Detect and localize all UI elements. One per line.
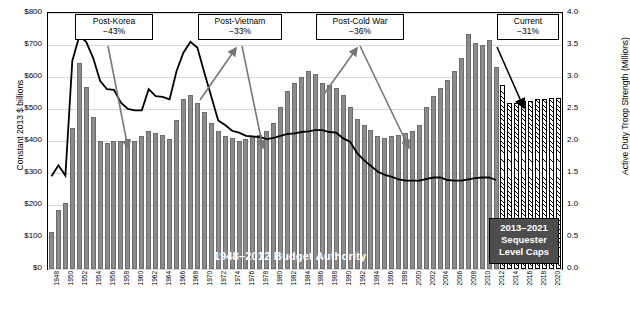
x-tick-label: 2010 bbox=[484, 271, 491, 285]
x-tick-label: 1978 bbox=[262, 271, 269, 285]
annotation-post-cold-war-title: Post-Cold War bbox=[333, 16, 388, 26]
y-tick-right: 0.0 bbox=[567, 263, 607, 272]
x-tick-label: 1972 bbox=[220, 271, 227, 285]
y-tick-left: $400 bbox=[2, 135, 42, 144]
y-tick-right: 3.0 bbox=[567, 71, 607, 80]
x-tick-label: 1952 bbox=[81, 271, 88, 285]
y-tick-left: $800 bbox=[2, 7, 42, 16]
y-tick-right: 1.5 bbox=[567, 167, 607, 176]
y-tick-left: $500 bbox=[2, 103, 42, 112]
caps-label-line-3: Level Caps bbox=[494, 246, 554, 258]
x-tick-label: 2014 bbox=[512, 271, 519, 285]
y-tick-left: $700 bbox=[2, 39, 42, 48]
x-tick-label: 1994 bbox=[373, 271, 380, 285]
y-axis-label-right: Active Duty Troop Strength (Millions) bbox=[620, 55, 630, 175]
annotation-post-vietnam: Post-Vietnam −33% bbox=[198, 14, 282, 40]
annotation-post-korea-title: Post-Korea bbox=[93, 16, 136, 26]
x-tick-label: 2008 bbox=[470, 271, 477, 285]
x-tick-label: 1954 bbox=[95, 271, 102, 285]
x-tick-label: 1958 bbox=[123, 271, 130, 285]
x-tick-label: 1984 bbox=[304, 271, 311, 285]
troop-line-path bbox=[52, 36, 497, 181]
y-axis-label-left: Constant 2013 $ billions bbox=[15, 75, 25, 175]
x-tick-label: 2018 bbox=[540, 271, 547, 285]
x-tick-label: 1990 bbox=[345, 271, 352, 285]
annotation-current-pct: −31% bbox=[503, 27, 553, 37]
x-tick-label: 2000 bbox=[415, 271, 422, 285]
troop-strength-line bbox=[48, 13, 562, 269]
annotation-post-cold-war: Post-Cold War −36% bbox=[316, 14, 404, 40]
x-tick-label: 2016 bbox=[526, 271, 533, 285]
x-tick-label: 2002 bbox=[429, 271, 436, 285]
caps-label-line-1: 2013–2021 bbox=[494, 222, 554, 234]
x-tick-label: 1956 bbox=[109, 271, 116, 285]
y-tick-right: 0.5 bbox=[567, 231, 607, 240]
x-tick-label: 1996 bbox=[387, 271, 394, 285]
y-tick-left: $200 bbox=[2, 199, 42, 208]
plot-area bbox=[47, 12, 563, 270]
x-tick-label: 1948 bbox=[53, 271, 60, 285]
x-tick-label: 1960 bbox=[137, 271, 144, 285]
x-tick-label: 1970 bbox=[206, 271, 213, 285]
x-tick-label: 1992 bbox=[359, 271, 366, 285]
x-tick-label: 1976 bbox=[248, 271, 255, 285]
y-tick-right: 1.0 bbox=[567, 199, 607, 208]
band-label: 1948–2012 Budget Authority bbox=[150, 250, 430, 262]
x-tick-label: 2012 bbox=[498, 271, 505, 285]
x-tick-label: 2006 bbox=[456, 271, 463, 285]
annotation-post-vietnam-pct: −33% bbox=[204, 27, 276, 37]
annotation-post-korea-pct: −43% bbox=[81, 27, 147, 37]
x-axis-labels: 1948195019521954195619581960196219641966… bbox=[47, 271, 563, 321]
x-tick-label: 2004 bbox=[442, 271, 449, 285]
x-tick-label: 1974 bbox=[234, 271, 241, 285]
y-tick-left: $100 bbox=[2, 231, 42, 240]
x-tick-label: 1966 bbox=[179, 271, 186, 285]
y-tick-right: 4.0 bbox=[567, 7, 607, 16]
caps-label-line-2: Sequester bbox=[494, 234, 554, 246]
annotation-current-title: Current bbox=[514, 16, 542, 26]
y-tick-left: $300 bbox=[2, 167, 42, 176]
x-tick-label: 1962 bbox=[151, 271, 158, 285]
caps-label-box: 2013–2021 Sequester Level Caps bbox=[489, 218, 559, 264]
x-tick-label: 1964 bbox=[165, 271, 172, 285]
annotation-post-korea: Post-Korea −43% bbox=[75, 14, 153, 40]
x-tick-label: 1980 bbox=[276, 271, 283, 285]
annotation-current: Current −31% bbox=[497, 14, 559, 40]
y-tick-right: 2.0 bbox=[567, 135, 607, 144]
y-tick-right: 3.5 bbox=[567, 39, 607, 48]
y-tick-right: 2.5 bbox=[567, 103, 607, 112]
annotation-post-cold-war-pct: −36% bbox=[322, 27, 398, 37]
x-tick-label: 1950 bbox=[67, 271, 74, 285]
annotation-post-vietnam-title: Post-Vietnam bbox=[215, 16, 266, 26]
x-tick-label: 1988 bbox=[331, 271, 338, 285]
x-tick-label: 1998 bbox=[401, 271, 408, 285]
x-tick-label: 1968 bbox=[192, 271, 199, 285]
x-tick-label: 1982 bbox=[290, 271, 297, 285]
x-tick-label: 1986 bbox=[317, 271, 324, 285]
y-tick-left: $600 bbox=[2, 71, 42, 80]
x-tick-label: 2020 bbox=[554, 271, 561, 285]
gridline bbox=[48, 269, 562, 270]
y-tick-left: $0 bbox=[2, 263, 42, 272]
